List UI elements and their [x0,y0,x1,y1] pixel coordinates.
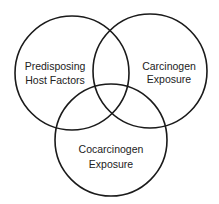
label-carcinogen-exposure-line2: Exposure [147,73,192,85]
label-predisposing-host-factors-line2: Host Factors [25,74,85,86]
label-carcinogen-exposure-line1: Carcinogen [142,60,196,72]
label-predisposing-host-factors-line1: Predisposing [25,60,86,72]
venn-diagram: Predisposing Host Factors Carcinogen Exp… [0,0,219,204]
label-cocarcinogen-exposure-line2: Exposure [89,158,134,170]
label-cocarcinogen-exposure-line1: Cocarcinogen [79,143,144,155]
circle-cocarcinogen-exposure [55,84,167,196]
